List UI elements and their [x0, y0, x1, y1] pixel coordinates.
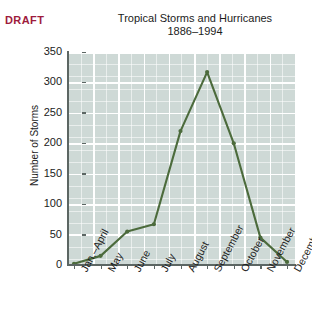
- x-axis-tick-label: October: [238, 235, 266, 274]
- x-axis-tick-label: July: [158, 251, 177, 273]
- x-axis-tick-mark: [127, 265, 128, 269]
- x-axis-tick-mark: [260, 265, 261, 269]
- x-axis-tick-mark: [234, 265, 235, 269]
- x-axis-tick-mark: [181, 265, 182, 269]
- x-axis-tick-mark: [101, 265, 102, 269]
- x-axis-tick-label: June: [131, 248, 152, 274]
- y-axis-title: Number of Storms: [29, 86, 40, 206]
- x-axis-tick-mark: [207, 265, 208, 269]
- x-axis-tick-mark: [154, 265, 155, 269]
- chart-figure: DRAFT Tropical Storms and Hurricanes 188…: [0, 0, 312, 332]
- x-axis-tick-mark: [74, 265, 75, 269]
- x-axis-tick-label: May: [105, 250, 125, 273]
- x-axis-tick-mark: [287, 265, 288, 269]
- x-axis-ticks: Jan.–AprilMayJuneJulyAugustSeptemberOcto…: [0, 0, 312, 332]
